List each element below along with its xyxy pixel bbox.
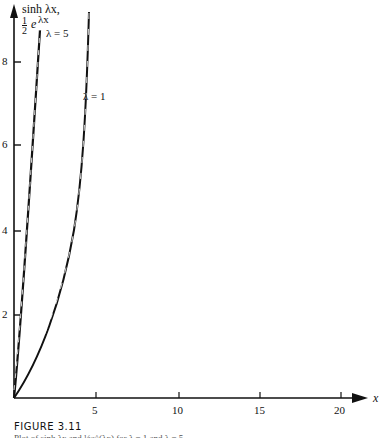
y-axis-label-fraction: 12 <box>22 16 27 35</box>
y-axis-label-exp: e <box>31 17 36 32</box>
x-ticks <box>96 392 341 398</box>
figure-caption-text: Plot of sinh λx and ½e^(λx) for λ = 1 an… <box>14 433 186 438</box>
curve-sinh-lambda5 <box>14 30 40 398</box>
chart-canvas <box>0 0 383 438</box>
x-tick-label-15: 15 <box>254 404 265 416</box>
x-tick-label-20: 20 <box>334 404 345 416</box>
y-tick-label-6: 6 <box>2 138 8 150</box>
x-axis-label: x <box>373 391 378 406</box>
figure-caption-title: FIGURE 3.11 <box>14 421 82 432</box>
y-tick-label-4: 4 <box>2 224 8 236</box>
annotation-lambda1: λ = 1 <box>83 90 106 102</box>
x-tick-label-5: 5 <box>92 404 98 416</box>
y-tick-label-2: 2 <box>2 308 8 320</box>
y-ticks <box>14 62 21 315</box>
annotation-lambda5: λ = 5 <box>46 27 69 39</box>
x-axis-arrow-icon <box>352 393 368 403</box>
y-axis-label-sup: λx <box>38 13 49 25</box>
x-tick-label-10: 10 <box>172 404 183 416</box>
y-axis-arrow-icon <box>10 4 18 18</box>
y-tick-label-8: 8 <box>2 55 8 67</box>
